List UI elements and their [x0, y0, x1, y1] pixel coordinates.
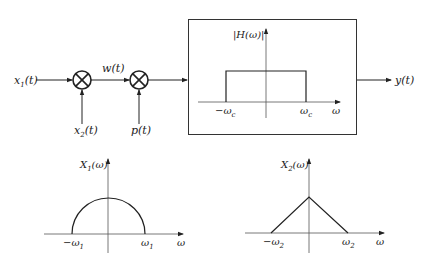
system-diagram: x1(t) x2(t) w(t) p(t) |H(ω)| −ωc ωc ω y(… — [0, 0, 424, 267]
x2-right-edge: ω2 — [342, 236, 355, 250]
multiplier-2-icon — [130, 71, 148, 89]
w-signal-label: w(t) — [102, 62, 124, 75]
x1-left-edge: −ω1 — [63, 237, 84, 251]
x1-right-edge: ω1 — [141, 237, 154, 251]
filter-x-label: ω — [332, 105, 340, 116]
x2-spectrum-curve — [271, 197, 348, 233]
input-p-label: p(t) — [131, 124, 151, 137]
filter-left-cutoff: −ωc — [215, 105, 236, 119]
input-x2-label: x2(t) — [74, 124, 98, 139]
x2-left-edge: −ω2 — [263, 236, 285, 250]
x1-spectrum-curve — [72, 198, 145, 234]
filter-box — [189, 20, 357, 135]
filter-right-cutoff: ωc — [300, 105, 312, 119]
x2-x-label: ω — [376, 236, 384, 247]
x2-y-label: X2(ω) — [280, 159, 309, 173]
input-x1-label: x1(t) — [14, 74, 38, 89]
x1-y-label: X1(ω) — [79, 159, 108, 173]
output-label: y(t) — [394, 74, 414, 87]
multiplier-1-icon — [73, 71, 91, 89]
x1-x-label: ω — [177, 237, 185, 248]
filter-y-label: |H(ω)| — [233, 29, 264, 41]
